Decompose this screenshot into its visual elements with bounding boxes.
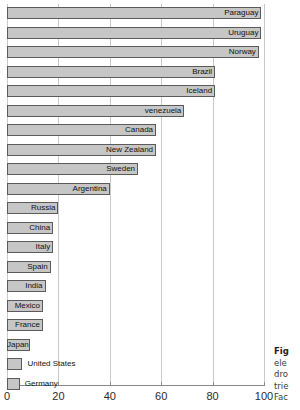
bar-value-label: Canada bbox=[7, 123, 153, 137]
bar-row: venezuela bbox=[7, 102, 264, 122]
bar-value-label: Uruguay bbox=[7, 26, 258, 40]
bar-row: Norway bbox=[7, 43, 264, 63]
bar bbox=[7, 378, 20, 390]
chart-plot-area: ParaguayUruguayNorwayBrazilIcelandvenezu… bbox=[7, 4, 264, 386]
bar-row: India bbox=[7, 277, 264, 297]
caption-line-4: trie bbox=[274, 381, 300, 393]
bar-value-label: China bbox=[7, 221, 50, 235]
bar-value-label: venezuela bbox=[7, 104, 181, 118]
bar-row: Sweden bbox=[7, 160, 264, 180]
x-tick-label-80: 80 bbox=[206, 390, 218, 402]
bar-value-label: Japan bbox=[7, 338, 27, 352]
bar-row: Argentina bbox=[7, 180, 264, 200]
bar-value-label: Italy bbox=[7, 240, 50, 254]
bar-value-label: United States bbox=[27, 357, 75, 371]
x-tick-100 bbox=[264, 382, 265, 386]
bar-row: Japan bbox=[7, 336, 264, 356]
bar-value-label: Argentina bbox=[7, 182, 107, 196]
bar-row: Paraguay bbox=[7, 4, 264, 24]
bar-value-label: Mexico bbox=[7, 299, 40, 313]
x-tick-label-0: 0 bbox=[4, 390, 10, 402]
bar-row: Iceland bbox=[7, 82, 264, 102]
x-axis-tick-labels: 020406080100 bbox=[0, 390, 300, 406]
bar-row: United States bbox=[7, 355, 264, 375]
bar-value-label: Paraguay bbox=[7, 6, 258, 20]
x-tick-label-100: 100 bbox=[255, 390, 273, 402]
bar-row: China bbox=[7, 219, 264, 239]
bar bbox=[7, 358, 22, 370]
bar-value-label: Germany bbox=[25, 377, 58, 391]
bar-row: Uruguay bbox=[7, 24, 264, 44]
figure-container: ParaguayUruguayNorwayBrazilIcelandvenezu… bbox=[0, 0, 300, 410]
caption-line-5: Fac bbox=[274, 392, 300, 404]
x-tick-label-20: 20 bbox=[52, 390, 64, 402]
bar-value-label: Spain bbox=[7, 260, 48, 274]
bar-row: Mexico bbox=[7, 297, 264, 317]
bar-value-label: Sweden bbox=[7, 162, 135, 176]
caption-line-3: dro bbox=[274, 369, 300, 381]
bar-value-label: Brazil bbox=[7, 65, 212, 79]
bar-row: Italy bbox=[7, 238, 264, 258]
caption-line-2: ele bbox=[274, 358, 300, 370]
caption-line-1: Fig bbox=[274, 346, 300, 358]
bar-value-label: Iceland bbox=[7, 84, 212, 98]
bar-value-label: India bbox=[7, 279, 43, 293]
bar-row: Brazil bbox=[7, 63, 264, 83]
figure-caption: Fig ele dro trie Fac bbox=[274, 346, 300, 404]
bar-value-label: New Zealand bbox=[7, 143, 153, 157]
x-tick-label-60: 60 bbox=[155, 390, 167, 402]
bar-row: Russia bbox=[7, 199, 264, 219]
bar-row: Spain bbox=[7, 258, 264, 278]
x-tick-label-40: 40 bbox=[104, 390, 116, 402]
bar-row: Canada bbox=[7, 121, 264, 141]
bar-row: France bbox=[7, 316, 264, 336]
gridline-100 bbox=[264, 4, 265, 386]
bar-value-label: Norway bbox=[7, 45, 256, 59]
bar-value-label: France bbox=[7, 318, 40, 332]
bar-value-label: Russia bbox=[7, 201, 55, 215]
bar-row: New Zealand bbox=[7, 141, 264, 161]
